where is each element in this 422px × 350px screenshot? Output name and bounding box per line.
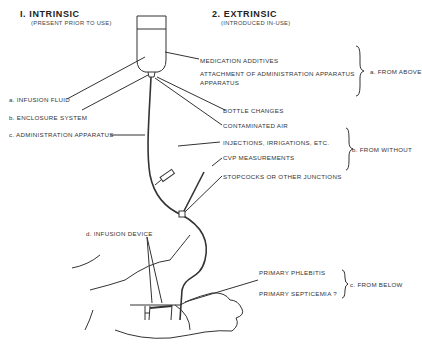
label-primary-phlebitis: PRIMARY PHLEBITIS xyxy=(259,269,325,276)
label-attachment-cont: APPARATUS xyxy=(200,79,239,86)
group-from-above: a. FROM ABOVE xyxy=(370,68,422,75)
label-primary-septicemia: PRIMARY SEPTICEMIA ? xyxy=(259,290,337,297)
extrinsic-heading: 2. EXTRINSIC xyxy=(212,9,277,19)
label-bottle-changes: BOTTLE CHANGES xyxy=(223,107,284,114)
iv-bottle-icon xyxy=(137,16,166,72)
intrinsic-heading: I. INTRINSIC xyxy=(20,9,80,19)
extrinsic-subtitle: (INTRODUCED IN-USE) xyxy=(221,20,290,26)
label-cvp: CVP MEASUREMENTS xyxy=(223,154,294,161)
group-from-without: b. FROM WITHOUT xyxy=(352,146,412,153)
label-medication-additives: MEDICATION ADDITIVES xyxy=(200,57,278,64)
label-contaminated-air: CONTAMINATED AIR xyxy=(223,122,288,129)
label-administration-apparatus: c. ADMINISTRATION APPARATUS xyxy=(9,131,114,138)
label-infusion-fluid: a. INFUSION FLUID xyxy=(9,96,70,103)
label-infusion-device: d. INFUSION DEVICE xyxy=(86,230,153,237)
label-attachment: ATTACHMENT OF ADMINISTRATION APPARATUS xyxy=(200,70,355,77)
iv-tubing xyxy=(148,77,206,320)
syringe-icon xyxy=(155,169,174,185)
label-stopcocks: STOPCOCKS OR OTHER JUNCTIONS xyxy=(223,173,342,180)
intrinsic-subtitle: (PRESENT PRIOR TO USE) xyxy=(31,20,112,26)
group-from-below: c. FROM BELOW xyxy=(350,281,403,288)
label-enclosure-system: b. ENCLOSURE SYSTEM xyxy=(9,114,87,121)
label-injections: INJECTIONS, IRRIGATIONS, ETC. xyxy=(223,139,329,146)
arm-outline xyxy=(72,235,243,338)
